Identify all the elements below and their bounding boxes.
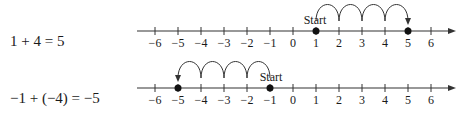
row-1-axis-arrowhead [448, 28, 456, 34]
row-2-tick-label: −2 [241, 93, 254, 107]
row-1-start-label: Start [304, 13, 327, 27]
row-2-tick-label: −4 [195, 93, 208, 107]
row-2-axis-arrowhead [448, 85, 456, 91]
row-1-hop-arc [362, 5, 385, 22]
row-1-tick-label: 4 [382, 36, 388, 50]
row-1-hop-arc [385, 5, 408, 22]
row-2-tick-label: −6 [149, 93, 162, 107]
row-1-start-point [313, 28, 320, 35]
row-2-tick-label: 0 [290, 93, 296, 107]
row-1-tick-label: 1 [313, 36, 319, 50]
row-1-end-point [405, 28, 412, 35]
row-2-tick-label: −3 [218, 93, 231, 107]
row-1-tick-label: 0 [290, 36, 296, 50]
row-2-start-point [267, 85, 274, 92]
row-1-tick-label: 5 [405, 36, 411, 50]
row-2-hop-arrowhead [175, 75, 181, 82]
row-1-tick-label: 3 [359, 36, 365, 50]
row-2-tick-label: 1 [313, 93, 319, 107]
row-1-tick-label: −3 [218, 36, 231, 50]
row-2-tick-label: 4 [382, 93, 388, 107]
row-1-tick-label: 2 [336, 36, 342, 50]
row-1-hop-arrowhead [405, 18, 411, 25]
row-2-tick-label: 6 [428, 93, 434, 107]
number-line-diagram: −6−5−4−3−2−10123456Start−6−5−4−3−2−10123… [0, 0, 468, 119]
row-2-hop-arc [178, 62, 201, 79]
row-1-tick-label: 6 [428, 36, 434, 50]
row-2-end-point [175, 85, 182, 92]
row-1-hop-arc [339, 5, 362, 22]
row-2-tick-label: 5 [405, 93, 411, 107]
row-2-tick-label: 3 [359, 93, 365, 107]
row-2-tick-label: −5 [172, 93, 185, 107]
row-1-tick-label: −4 [195, 36, 208, 50]
row-1-tick-label: −6 [149, 36, 162, 50]
row-2-start-label: Start [260, 70, 283, 84]
row-1-tick-label: −5 [172, 36, 185, 50]
row-2-hop-arc [201, 62, 224, 79]
row-1-tick-label: −1 [264, 36, 277, 50]
row-2-tick-label: 2 [336, 93, 342, 107]
row-2-tick-label: −1 [264, 93, 277, 107]
row-2-hop-arc [224, 62, 247, 79]
row-1-tick-label: −2 [241, 36, 254, 50]
